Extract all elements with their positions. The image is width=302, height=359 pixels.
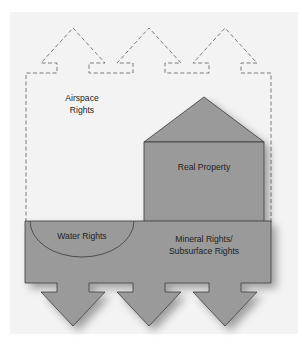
real-property-label: Real Property xyxy=(178,162,231,172)
airspace-rights-label-line1: Airspace xyxy=(65,93,99,103)
water-rights-label: Water Rights xyxy=(57,231,106,241)
mineral-rights-label-line2: Subsurface Rights xyxy=(169,246,239,256)
house-body xyxy=(144,142,264,222)
property-rights-diagram: Airspace Rights Real Property Water Righ… xyxy=(0,0,302,359)
airspace-rights-label-line2: Rights xyxy=(70,105,94,115)
mineral-rights-label-line1: Mineral Rights/ xyxy=(175,234,233,244)
